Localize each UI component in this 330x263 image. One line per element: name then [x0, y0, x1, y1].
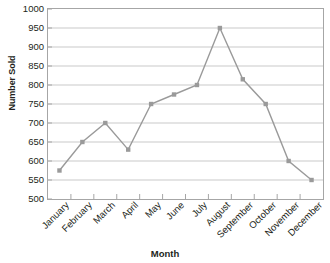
x-axis-tick-labels: JanuaryFebruaryMarchAprilMayJuneJulyAugu… — [47, 200, 324, 250]
data-point-marker — [80, 140, 84, 144]
data-point-marker — [149, 102, 153, 106]
data-point-marker — [286, 159, 290, 163]
y-axis-tick-label: 600 — [14, 156, 44, 166]
y-axis-tick-label: 900 — [14, 42, 44, 52]
y-axis-tick-label: 950 — [14, 23, 44, 33]
plot-area — [47, 8, 324, 200]
data-point-marker — [218, 26, 222, 30]
plot-svg — [48, 9, 323, 199]
data-point-marker — [309, 178, 313, 182]
y-axis-tick-label: 850 — [14, 61, 44, 71]
data-point-marker — [195, 83, 199, 87]
data-point-marker — [172, 92, 176, 96]
data-point-marker — [57, 168, 61, 172]
chart-title — [0, 0, 330, 1]
y-axis-tick-label: 550 — [14, 175, 44, 185]
data-point-marker — [241, 77, 245, 81]
data-point-marker — [103, 121, 107, 125]
data-point-marker — [126, 147, 130, 151]
y-axis-tick-label: 800 — [14, 80, 44, 90]
y-axis-tick-label: 700 — [14, 118, 44, 128]
y-axis-tick-label: 650 — [14, 137, 44, 147]
x-axis-title: Month — [0, 248, 330, 259]
y-axis-tick-label: 500 — [14, 194, 44, 204]
line-chart: Number Sold 1000950900850800750700650600… — [0, 0, 330, 263]
y-axis-tick-label: 1000 — [14, 4, 44, 14]
data-point-marker — [264, 102, 268, 106]
y-axis-tick-labels: 1000950900850800750700650600550500 — [14, 8, 44, 200]
y-axis-tick-label: 750 — [14, 99, 44, 109]
